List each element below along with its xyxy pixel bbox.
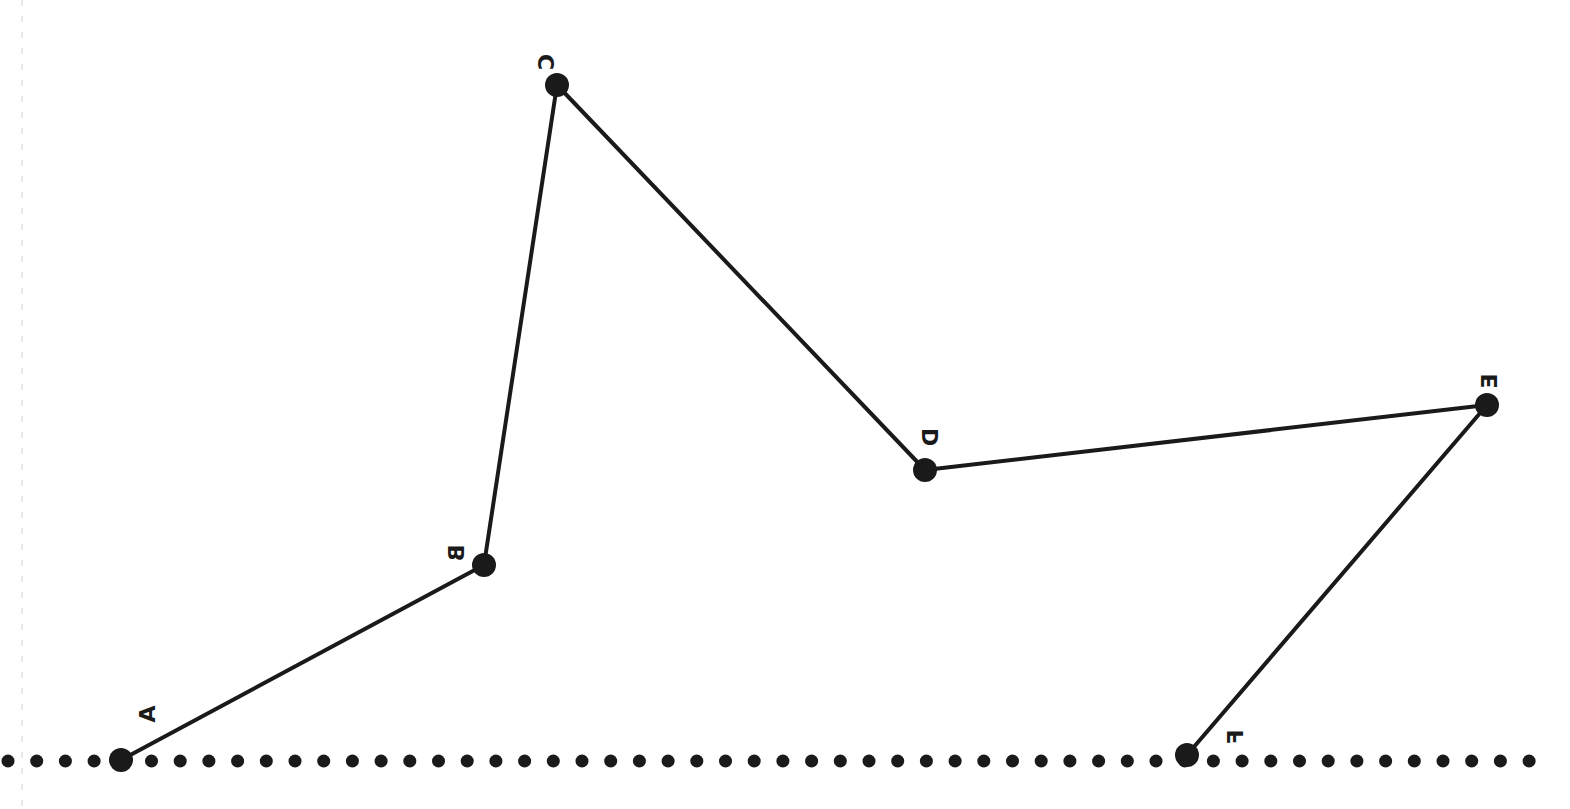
baseline-dot: [719, 755, 732, 768]
baseline-dot: [690, 755, 703, 768]
segment-ef: [1187, 405, 1487, 755]
baseline-dot: [805, 755, 818, 768]
baseline-dot: [1236, 755, 1249, 768]
point-c: [545, 73, 569, 97]
baseline-dot: [432, 755, 445, 768]
baseline-dot: [1092, 755, 1105, 768]
point-b: [472, 553, 496, 577]
baseline-dot: [1437, 755, 1450, 768]
baseline-dot: [174, 755, 187, 768]
baseline-dot: [231, 755, 244, 768]
baseline-dot: [1264, 755, 1277, 768]
baseline-dot: [461, 755, 474, 768]
dotted-baseline: [2, 755, 1536, 768]
baseline-dot: [662, 755, 675, 768]
baseline-dot: [59, 755, 72, 768]
baseline-dot: [145, 755, 158, 768]
baseline-dot: [1150, 755, 1163, 768]
baseline-dot: [1379, 755, 1392, 768]
baseline-dot: [1121, 755, 1134, 768]
point-a: [109, 748, 133, 772]
baseline-dot: [317, 755, 330, 768]
baseline-dot: [920, 755, 933, 768]
point-f: [1175, 743, 1199, 767]
segment-bc: [484, 85, 557, 565]
baseline-dot: [88, 755, 101, 768]
baseline-dot: [375, 755, 388, 768]
baseline-dot: [1322, 755, 1335, 768]
baseline-dot: [977, 755, 990, 768]
baseline-dot: [1494, 755, 1507, 768]
segment-cd: [557, 85, 925, 470]
label-b: B: [444, 545, 469, 562]
baseline-dot: [776, 755, 789, 768]
label-f: F: [1223, 729, 1248, 744]
baseline-dot: [863, 755, 876, 768]
polyline-segments: [121, 85, 1487, 760]
baseline-dot: [1408, 755, 1421, 768]
baseline-dot: [1465, 755, 1478, 768]
baseline-dot: [1293, 755, 1306, 768]
baseline-dot: [1350, 755, 1363, 768]
baseline-dot: [1006, 755, 1019, 768]
baseline-dot: [891, 755, 904, 768]
baseline-dot: [1035, 755, 1048, 768]
baseline-dot: [1207, 755, 1220, 768]
baseline-dot: [346, 755, 359, 768]
baseline-dot: [604, 755, 617, 768]
baseline-dot: [2, 755, 15, 768]
label-c: C: [534, 54, 559, 70]
segment-de: [925, 405, 1487, 470]
label-d: D: [918, 428, 943, 446]
baseline-dot: [202, 755, 215, 768]
baseline-dot: [1523, 755, 1536, 768]
baseline-dot: [403, 755, 416, 768]
baseline-dot: [547, 755, 560, 768]
label-e: E: [1477, 373, 1502, 388]
baseline-dot: [30, 755, 43, 768]
label-a: A: [135, 705, 160, 722]
baseline-dot: [834, 755, 847, 768]
baseline-dot: [949, 755, 962, 768]
baseline-dot: [518, 755, 531, 768]
baseline-dot: [289, 755, 302, 768]
point-e: [1475, 393, 1499, 417]
diagram-canvas: ABCDEF: [0, 0, 1570, 809]
baseline-dot: [633, 755, 646, 768]
baseline-dot: [260, 755, 273, 768]
baseline-dot: [576, 755, 589, 768]
baseline-dot: [1063, 755, 1076, 768]
vertex-points: [109, 73, 1499, 772]
baseline-dot: [748, 755, 761, 768]
segment-ab: [121, 565, 484, 760]
baseline-dot: [489, 755, 502, 768]
point-d: [913, 458, 937, 482]
